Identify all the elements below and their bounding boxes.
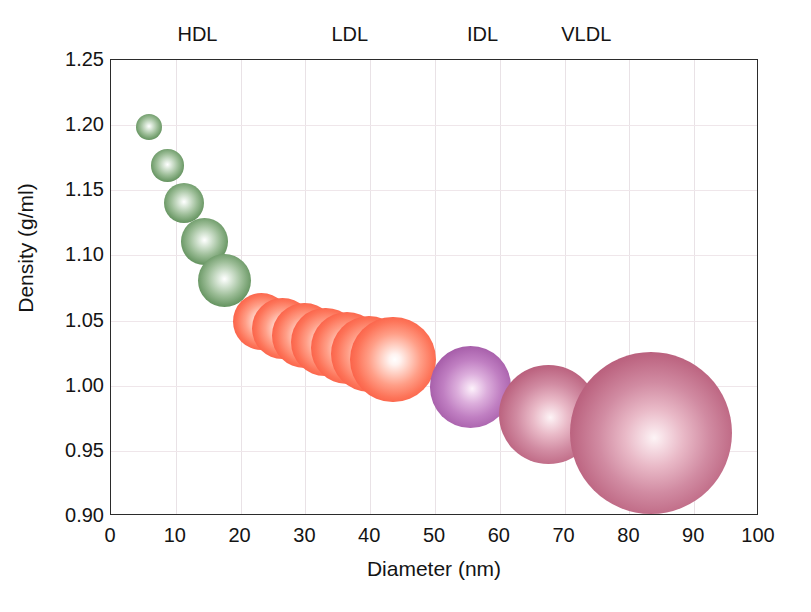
class-label-row: HDLLDLIDLVLDL bbox=[110, 22, 758, 50]
x-tick-label: 40 bbox=[339, 525, 399, 545]
x-tick-label: 60 bbox=[469, 525, 529, 545]
x-tick-label: 80 bbox=[598, 525, 658, 545]
x-tick-label: 0 bbox=[80, 525, 140, 545]
x-tick-label: 20 bbox=[210, 525, 270, 545]
data-point-vldl-2 bbox=[570, 352, 732, 514]
plot-area bbox=[110, 59, 758, 515]
gridline-vertical bbox=[370, 60, 371, 514]
gridline-horizontal bbox=[111, 125, 757, 126]
y-tick-label: 1.20 bbox=[34, 114, 104, 134]
gridline-horizontal bbox=[111, 321, 757, 322]
gridline-vertical bbox=[305, 60, 306, 514]
data-point-hdl-2 bbox=[151, 149, 183, 181]
x-tick-label: 90 bbox=[663, 525, 723, 545]
x-tick-label: 70 bbox=[534, 525, 594, 545]
data-point-hdl-1 bbox=[136, 114, 162, 140]
y-tick-label: 1.25 bbox=[34, 49, 104, 69]
gridline-vertical bbox=[500, 60, 501, 514]
class-label-hdl: HDL bbox=[127, 22, 267, 46]
y-tick-label: 1.05 bbox=[34, 310, 104, 330]
y-tick-label: 1.00 bbox=[34, 375, 104, 395]
x-tick-label: 10 bbox=[145, 525, 205, 545]
data-point-ldl-7 bbox=[350, 317, 436, 403]
y-tick-label: 1.15 bbox=[34, 179, 104, 199]
x-axis-title: Diameter (nm) bbox=[110, 557, 758, 581]
data-point-hdl-3 bbox=[164, 183, 204, 223]
x-tick-label: 100 bbox=[728, 525, 788, 545]
y-tick-label: 0.95 bbox=[34, 440, 104, 460]
y-tick-label: 1.10 bbox=[34, 244, 104, 264]
gridline-vertical bbox=[435, 60, 436, 514]
x-tick-label: 50 bbox=[404, 525, 464, 545]
x-tick-label: 30 bbox=[274, 525, 334, 545]
class-label-vldl: VLDL bbox=[516, 22, 656, 46]
y-axis-tick-labels: 0.900.951.001.051.101.151.201.25 bbox=[30, 59, 104, 515]
x-axis-tick-labels: 0102030405060708090100 bbox=[110, 525, 758, 551]
y-tick-label: 0.90 bbox=[34, 505, 104, 525]
gridline-vertical bbox=[176, 60, 177, 514]
lipoprotein-density-diameter-chart: HDLLDLIDLVLDL Density (g/ml) 0.900.951.0… bbox=[0, 0, 811, 612]
class-label-ldl: LDL bbox=[280, 22, 420, 46]
gridline-horizontal bbox=[111, 190, 757, 191]
